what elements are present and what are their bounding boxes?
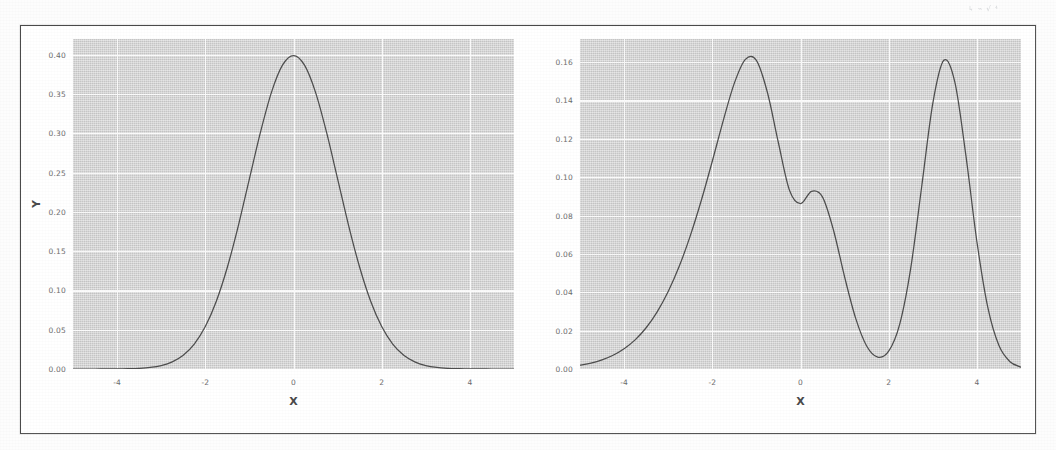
y-tick-label: 0.10 (49, 286, 67, 295)
chart-panel-right: 0.000.020.040.060.080.100.120.140.16 -4-… (528, 26, 1035, 433)
x-tick-label: -2 (709, 378, 716, 387)
x-tick-label: -4 (113, 378, 120, 387)
y-tick-label: 0.00 (556, 365, 574, 374)
figure-frame: 0.000.050.100.150.200.250.300.350.40 -4-… (20, 25, 1036, 434)
y-tick-label: 0.10 (556, 173, 574, 182)
y-tick-label: 0.16 (556, 58, 574, 67)
density-curve-right (580, 39, 1021, 369)
y-axis-label-left: Y (30, 200, 43, 208)
scan-artifact-mark: ↳ ⌁ √ ⁴ (968, 4, 1038, 38)
plot-axes-right: 0.000.020.040.060.080.100.120.140.16 -4-… (580, 39, 1021, 369)
y-tick-label: 0.00 (49, 365, 67, 374)
y-tick-label: 0.06 (556, 249, 574, 258)
x-tick-label: -2 (202, 378, 209, 387)
x-tick-label: 4 (975, 378, 980, 387)
plot-area-right (580, 39, 1021, 369)
y-tick-label: 0.04 (556, 288, 574, 297)
x-tick-label: 2 (379, 378, 384, 387)
y-tick-label: 0.08 (556, 211, 574, 220)
x-tick-label: 0 (798, 378, 803, 387)
plot-axes-left: 0.000.050.100.150.200.250.300.350.40 -4-… (73, 39, 514, 369)
y-tick-label: 0.20 (49, 207, 67, 216)
density-curve-left (73, 39, 514, 369)
y-tick-label: 0.15 (49, 247, 67, 256)
y-tick-label: 0.02 (556, 326, 574, 335)
x-axis-label-left: X (289, 395, 297, 408)
y-tick-label: 0.12 (556, 134, 574, 143)
panel-container: 0.000.050.100.150.200.250.300.350.40 -4-… (21, 26, 1035, 433)
plot-area-left (73, 39, 514, 369)
x-tick-label: 0 (291, 378, 296, 387)
y-tick-label: 0.40 (49, 50, 67, 59)
y-tick-label: 0.05 (49, 325, 67, 334)
x-axis-label-right: X (796, 395, 804, 408)
y-tick-label: 0.35 (49, 90, 67, 99)
y-tick-label: 0.25 (49, 168, 67, 177)
y-tick-label: 0.14 (556, 96, 574, 105)
chart-panel-left: 0.000.050.100.150.200.250.300.350.40 -4-… (21, 26, 528, 433)
x-tick-label: 2 (886, 378, 891, 387)
y-tick-label: 0.30 (49, 129, 67, 138)
x-tick-label: -4 (620, 378, 627, 387)
x-tick-label: 4 (468, 378, 473, 387)
